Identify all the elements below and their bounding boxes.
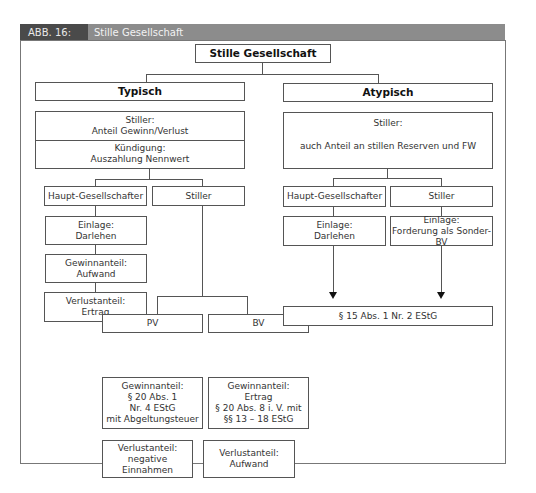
connector (95, 179, 202, 180)
connector (333, 178, 442, 179)
bv-gewinn: Gewinnanteil: Ertrag § 20 Abs. 8 i. V. m… (208, 377, 309, 429)
pv-node: PV (102, 314, 203, 333)
text: § 20 Abs. 1 (128, 392, 178, 403)
figure-title-bar: Stille Gesellschaft (88, 24, 505, 40)
typisch-haupt-einlage: Einlage: Darlehen (45, 216, 147, 245)
atypisch-stiller-node: Stiller (390, 186, 493, 207)
arrow-line (441, 246, 442, 292)
figure-label-text: ABB. 16: (28, 27, 71, 38)
connector (202, 179, 203, 186)
text: Nr. 4 EStG (130, 403, 176, 414)
text: § 15 Abs. 1 Nr. 2 EStG (339, 311, 437, 322)
text: auch Anteil an stillen Reserven und FW (300, 141, 476, 152)
text: Stiller (186, 191, 212, 202)
connector (441, 178, 442, 186)
arrow-line (333, 246, 334, 292)
text: PV (147, 318, 159, 329)
typisch-info-termination: Kündigung: Auszahlung Nennwert (36, 141, 244, 169)
connector (146, 74, 147, 82)
typisch-info-share: Stiller: Anteil Gewinn/Verlust (36, 112, 244, 141)
text: Kündigung: (115, 143, 166, 154)
atypisch-node: Atypisch (283, 83, 493, 102)
text: Einlage: (423, 215, 459, 226)
atypisch-haupt-einlage: Einlage: Darlehen (283, 216, 386, 246)
text: Gewinnanteil: (121, 381, 183, 392)
arrow-down-icon (329, 292, 337, 299)
text: Ertrag (245, 392, 273, 403)
arrow-down-icon (437, 292, 445, 299)
text: Einlage: (78, 220, 114, 231)
connector (333, 178, 334, 186)
atypisch-result: § 15 Abs. 1 Nr. 2 EStG (283, 306, 493, 326)
connector (95, 245, 96, 254)
connector (262, 63, 263, 74)
figure-title: Stille Gesellschaft (94, 27, 183, 38)
text: § 20 Abs. 8 i. V. mit (215, 403, 301, 414)
text: Einlage: (316, 220, 352, 231)
text: Stiller: (374, 118, 403, 129)
text: Haupt-Gesellschafter (287, 191, 382, 202)
text: Stiller: (126, 115, 155, 126)
connector (95, 206, 96, 216)
connector (387, 169, 388, 178)
connector (95, 179, 96, 186)
atypisch-stiller-einlage: Einlage: Forderung als Sonder-BV (390, 216, 493, 246)
atypisch-info: Stiller: auch Anteil an stillen Reserven… (283, 112, 493, 169)
pv-verlust: Verlustanteil: negative Einnahmen (102, 440, 193, 478)
typisch-haupt-gewinn: Gewinnanteil: Aufwand (45, 254, 147, 283)
text: Darlehen (75, 231, 116, 242)
connector (333, 207, 334, 216)
root-node: Stille Gesellschaft (195, 44, 331, 63)
text: Einnahmen (122, 465, 173, 476)
text: Anteil Gewinn/Verlust (92, 126, 189, 137)
typisch-info: Stiller: Anteil Gewinn/Verlust Kündigung… (35, 111, 245, 169)
connector (95, 283, 96, 292)
pv-gewinn: Gewinnanteil: § 20 Abs. 1 Nr. 4 EStG mit… (102, 377, 203, 429)
text: Aufwand (76, 269, 115, 280)
connector (149, 169, 150, 179)
bv-verlust: Verlustanteil: Aufwand (203, 440, 295, 478)
text: Aufwand (229, 459, 268, 470)
atypisch-haupt-node: Haupt-Gesellschafter (283, 186, 386, 207)
text: Forderung als Sonder-BV (391, 226, 492, 248)
text: Verlustanteil: (219, 448, 278, 459)
typisch-stiller-node: Stiller (152, 186, 245, 206)
root-label: Stille Gesellschaft (209, 48, 316, 59)
typisch-node: Typisch (35, 82, 245, 101)
typisch-haupt-node: Haupt-Gesellschafter (44, 186, 147, 206)
figure-label: ABB. 16: (20, 24, 88, 40)
text: Verlustanteil: (66, 296, 125, 307)
text: Darlehen (314, 231, 355, 242)
connector (157, 296, 158, 314)
atypisch-label: Atypisch (362, 87, 413, 98)
text: BV (252, 318, 264, 329)
connector (378, 74, 379, 83)
text: Gewinnanteil: (65, 258, 127, 269)
text: Auszahlung Nennwert (91, 154, 190, 165)
connector (157, 296, 248, 297)
typisch-label: Typisch (118, 86, 162, 97)
text: Stiller (429, 191, 455, 202)
text: negative (128, 454, 167, 465)
connector (247, 296, 248, 314)
text: Gewinnanteil: (227, 381, 289, 392)
connector (146, 74, 378, 75)
text: §§ 13 – 18 EStG (224, 414, 294, 425)
text: mit Abgeltungsteuer (106, 414, 199, 425)
connector (202, 206, 203, 296)
text: Haupt-Gesellschafter (48, 191, 143, 202)
text: Verlustanteil: (118, 443, 177, 454)
